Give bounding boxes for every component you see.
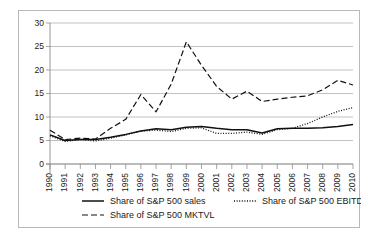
x-axis-label-2006: 2006 — [287, 173, 297, 192]
x-axis-label-1998: 1998 — [165, 173, 175, 192]
x-axis-label-1997: 1997 — [150, 173, 160, 192]
x-axis-label-1991: 1991 — [59, 173, 69, 192]
x-axis-label-2004: 2004 — [256, 173, 266, 192]
x-axis-label-2000: 2000 — [196, 173, 206, 192]
chart-legend: Share of S&P 500 salesShare of S&P 500 E… — [82, 196, 361, 220]
series-group — [50, 42, 353, 142]
legend-item-share-of-s-p-500-mktvl: Share of S&P 500 MKTVL — [82, 210, 214, 220]
x-axis-label-2009: 2009 — [332, 173, 342, 192]
x-axis-ticks: 1990199119921993199419951996199719981999… — [44, 164, 357, 192]
legend-label-share-of-s-p-500-mktvl: Share of S&P 500 MKTVL — [110, 210, 214, 220]
y-axis-label-30: 30 — [35, 18, 45, 28]
x-axis-label-1996: 1996 — [135, 173, 145, 192]
x-axis-label-1990: 1990 — [44, 173, 54, 192]
y-axis-label-0: 0 — [39, 159, 44, 169]
line-chart: 0510152025301990199119921993199419951996… — [19, 11, 361, 229]
y-axis-label-25: 25 — [35, 41, 45, 51]
y-gridlines: 051015202530 — [35, 18, 353, 169]
series-line-share-of-s-p-500-sales — [50, 125, 353, 141]
x-axis-label-2002: 2002 — [226, 173, 236, 192]
y-axis-label-10: 10 — [35, 112, 45, 122]
x-axis-label-1992: 1992 — [75, 173, 85, 192]
x-axis-label-1995: 1995 — [120, 173, 130, 192]
y-axis-label-15: 15 — [35, 88, 45, 98]
x-axis-label-1999: 1999 — [181, 173, 191, 192]
legend-label-share-of-s-p-500-sales: Share of S&P 500 sales — [110, 196, 206, 206]
x-axis-label-1993: 1993 — [90, 173, 100, 192]
legend-label-share-of-s-p-500-ebitda: Share of S&P 500 EBITDA — [262, 196, 361, 206]
y-axis-label-20: 20 — [35, 65, 45, 75]
plot-area-wrapper: 0510152025301990199119921993199419951996… — [19, 11, 361, 229]
x-axis-label-2008: 2008 — [317, 173, 327, 192]
chart-figure: 0510152025301990199119921993199419951996… — [18, 10, 360, 228]
x-axis-label-1994: 1994 — [105, 173, 115, 192]
legend-item-share-of-s-p-500-ebitda: Share of S&P 500 EBITDA — [234, 196, 361, 206]
series-line-share-of-s-p-500-ebitda — [50, 108, 353, 142]
x-axis-label-2007: 2007 — [302, 173, 312, 192]
x-axis-label-2010: 2010 — [347, 173, 357, 192]
x-axis-label-2001: 2001 — [211, 173, 221, 192]
x-axis-label-2005: 2005 — [272, 173, 282, 192]
x-axis-label-2003: 2003 — [241, 173, 251, 192]
series-line-share-of-s-p-500-mktvl — [50, 42, 353, 140]
legend-item-share-of-s-p-500-sales: Share of S&P 500 sales — [82, 196, 206, 206]
y-axis-label-5: 5 — [39, 135, 44, 145]
